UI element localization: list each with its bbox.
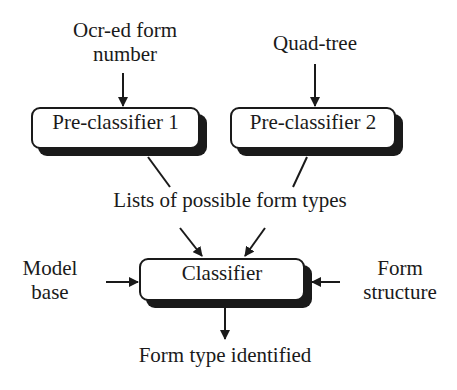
input-ocr-line1: Ocr-ed form [50,18,200,42]
input-quad-tree: Quad-tree [255,31,375,55]
node-pre-classifier-2: Pre-classifier 2 [230,107,396,149]
output-form-type-identified: Form type identified [110,343,340,367]
node-pre-classifier-1: Pre-classifier 1 [31,107,200,149]
input-model-line2: base [10,280,90,304]
input-form-structure: Form structure [350,256,450,304]
input-model-line1: Model [10,256,90,280]
input-ocr-line2: number [50,42,200,66]
input-structure-line2: structure [350,280,450,304]
intermediate-lists-of-form-types: Lists of possible form types [90,188,370,212]
input-model-base: Model base [10,256,90,304]
node-classifier: Classifier [139,258,305,301]
input-structure-line1: Form [350,256,450,280]
input-ocr-form-number: Ocr-ed form number [50,18,200,66]
